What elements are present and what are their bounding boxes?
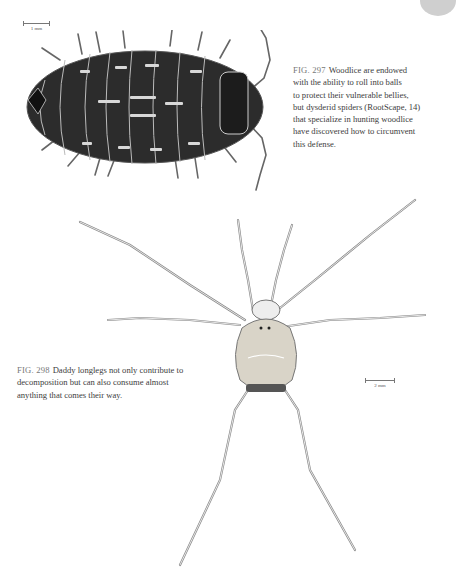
caption-line: decomposition but can also consume almos… <box>17 376 227 388</box>
scale-bar-line <box>365 380 395 381</box>
caption-line: but dysderid spiders (RootScape, 14) <box>293 101 443 113</box>
caption-line: Daddy longlegs not only contribute to <box>53 365 184 375</box>
caption-line: have discovered how to circumvent <box>293 125 443 137</box>
figure-label: FIG. 298 <box>17 365 50 375</box>
woodlouse-illustration <box>20 30 275 200</box>
caption-line: anything that comes their way. <box>17 389 227 401</box>
figure-298-caption: FIG. 298Daddy longlegs not only contribu… <box>17 364 227 401</box>
caption-line: to protect their vulnerable bellies, <box>293 89 443 101</box>
caption-line: Woodlice are endowed <box>329 65 408 75</box>
scale-bar-2mm: 2 mm <box>365 380 395 388</box>
scale-bar-label: 2 mm <box>365 383 395 388</box>
caption-line: with the ability to roll into balls <box>293 76 443 88</box>
figure-297-caption: FIG. 297Woodlice are endowed with the ab… <box>293 64 443 150</box>
figure-label: FIG. 297 <box>293 65 326 75</box>
page-edge-tab <box>420 0 456 16</box>
scale-bar-line <box>23 23 50 24</box>
caption-line: that specialize in hunting woodlice <box>293 113 443 125</box>
caption-line: this defense. <box>293 138 443 150</box>
